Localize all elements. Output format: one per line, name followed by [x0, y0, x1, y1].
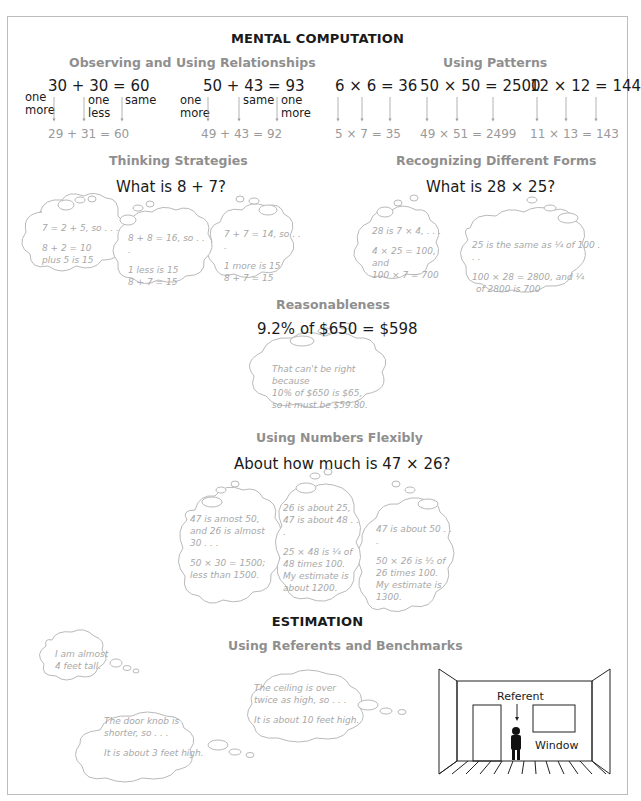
window-icon [533, 705, 575, 732]
person-icon [511, 727, 521, 760]
referent-label: Referent [497, 690, 544, 703]
window-label: Window [535, 739, 578, 752]
down-arrow-icon [515, 717, 519, 721]
door-icon [473, 705, 501, 761]
